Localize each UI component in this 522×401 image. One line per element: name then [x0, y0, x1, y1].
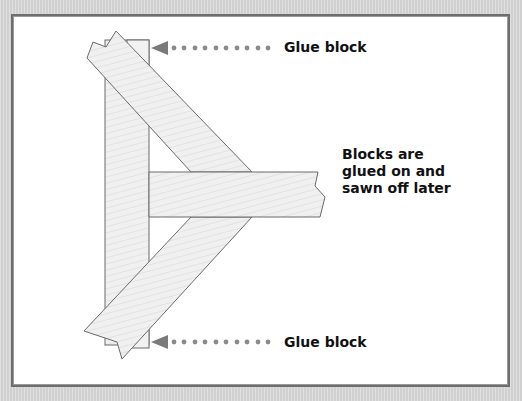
top-glue-block-arrow-icon: [151, 41, 270, 55]
horizontal-member: [149, 172, 325, 217]
note-label: Blocks are glued on and sawn off later: [342, 146, 451, 197]
bottom-glue-block-label: Glue block: [284, 334, 367, 351]
joint-diagram: [0, 0, 522, 401]
top-glue-block-label: Glue block: [284, 39, 367, 56]
bottom-glue-block-arrow-icon: [151, 335, 270, 349]
